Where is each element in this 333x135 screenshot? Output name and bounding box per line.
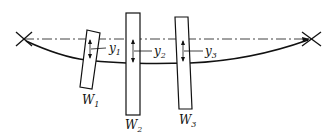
mass-w2: y2 W2 bbox=[125, 13, 166, 134]
mass-w2-label: W2 bbox=[125, 118, 142, 134]
mass-w3-label: W3 bbox=[179, 113, 196, 129]
mass-w1-label: W1 bbox=[82, 93, 99, 109]
deflected-shaft-curve bbox=[26, 40, 308, 63]
deflection-y3-label: y3 bbox=[204, 44, 217, 60]
mass-w3: y3 W3 bbox=[175, 17, 217, 129]
mass-w1: y1 W1 bbox=[80, 30, 121, 109]
shaft-deflection-diagram: y1 W1 y2 W2 y3 W3 bbox=[0, 0, 333, 135]
deflection-y2-label: y2 bbox=[153, 44, 166, 60]
deflection-y1-label: y1 bbox=[108, 41, 121, 57]
